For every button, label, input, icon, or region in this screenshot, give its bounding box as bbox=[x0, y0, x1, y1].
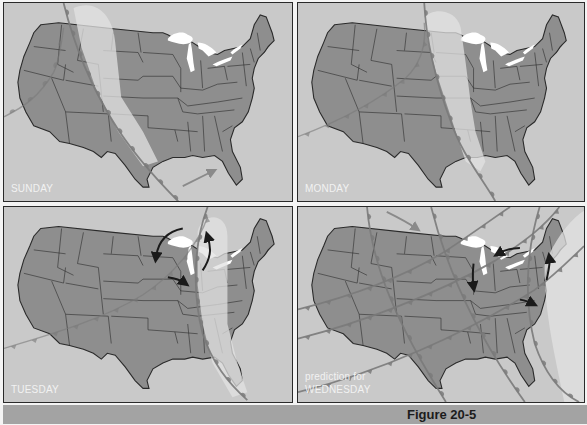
panel-wednesday: prediction for WEDNESDAY bbox=[297, 206, 585, 403]
panel-label-wednesday: prediction for WEDNESDAY bbox=[305, 370, 371, 396]
caption-bar: Figure 20-5 bbox=[3, 405, 587, 424]
panel-label-tuesday: TUESDAY bbox=[11, 383, 59, 396]
weather-map-figure: SUNDAY MONDAY TUESDAY bbox=[0, 0, 587, 425]
day-label: SUNDAY bbox=[11, 183, 53, 194]
prediction-label: prediction for bbox=[305, 371, 366, 382]
panel-label-monday: MONDAY bbox=[305, 182, 349, 195]
panel-monday: MONDAY bbox=[297, 2, 585, 202]
panel-tuesday: TUESDAY bbox=[3, 206, 293, 403]
day-label: WEDNESDAY bbox=[305, 384, 371, 395]
sunday-map bbox=[4, 3, 292, 201]
day-label: TUESDAY bbox=[11, 384, 59, 395]
tuesday-map bbox=[4, 207, 292, 402]
wind-arrows bbox=[183, 171, 213, 186]
figure-caption: Figure 20-5 bbox=[407, 407, 476, 422]
panel-label-sunday: SUNDAY bbox=[11, 182, 53, 195]
day-label: MONDAY bbox=[305, 183, 349, 194]
monday-map bbox=[298, 3, 584, 201]
panel-sunday: SUNDAY bbox=[3, 2, 293, 202]
